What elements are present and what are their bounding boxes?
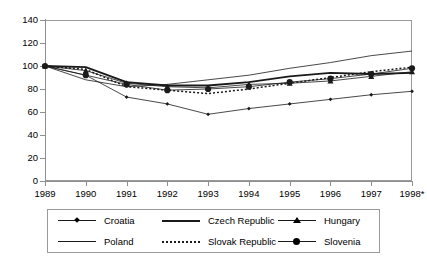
data-point [409,65,415,71]
data-point [205,86,211,92]
legend-item-poland[interactable]: Poland [56,231,134,252]
data-point [164,87,170,93]
legend-label-hungary: Hungary [318,215,360,226]
series-poland [45,51,412,87]
series-slovak-republic [45,66,412,94]
data-point [247,107,251,111]
legend-label-slovenia: Slovenia [318,236,360,247]
legend-label-poland: Poland [98,236,134,247]
legend-swatch-czech-republic [160,214,202,228]
chart-legend: Croatia Czech Republic Hungary Poland [47,209,380,253]
legend-swatch-hungary [276,214,318,228]
data-point [165,102,169,106]
data-point [327,76,333,82]
legend-label-czech-republic: Czech Republic [202,215,275,226]
legend-row-2: Poland Slovak Republic Slovenia [48,231,381,252]
data-point [288,102,292,106]
legend-item-hungary[interactable]: Hungary [276,210,360,231]
legend-label-croatia: Croatia [98,215,135,226]
data-point [410,89,414,93]
legend-swatch-slovenia [276,235,318,249]
data-point [329,97,333,101]
legend-swatch-poland [56,235,98,249]
legend-item-croatia[interactable]: Croatia [56,210,135,231]
data-point [83,72,89,78]
legend-item-slovak-republic[interactable]: Slovak Republic [160,231,276,252]
data-point [368,71,374,77]
data-point [369,93,373,97]
legend-row-1: Croatia Czech Republic Hungary [48,210,381,231]
legend-swatch-slovak-republic [160,235,202,249]
data-point [206,112,210,116]
chart-root: 020406080100120140 198919901991199219931… [0,0,427,266]
legend-label-slovak-republic: Slovak Republic [202,236,276,247]
data-point [287,79,293,85]
data-point [246,84,252,90]
series-hungary [42,63,415,90]
data-point [42,63,48,69]
series-line [45,51,412,87]
legend-item-slovenia[interactable]: Slovenia [276,231,360,252]
data-point [123,81,129,87]
data-point [125,95,129,99]
legend-item-czech-republic[interactable]: Czech Republic [160,210,275,231]
legend-swatch-croatia [56,214,98,228]
series-line [45,66,412,94]
